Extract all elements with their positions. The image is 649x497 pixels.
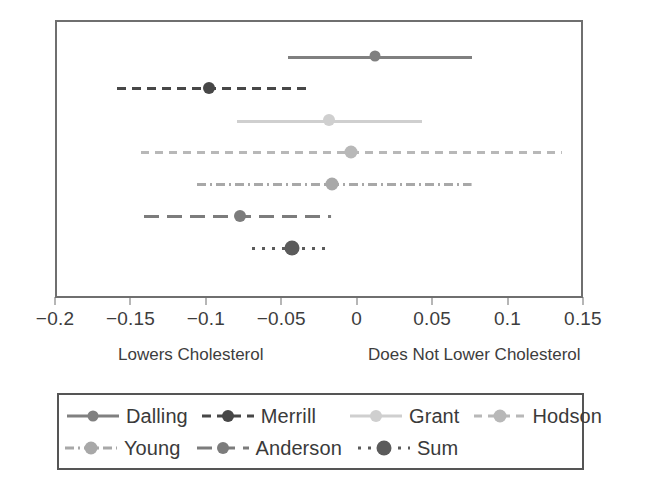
legend-row: YoungAndersonSum (59, 432, 588, 464)
x-axis-tick (281, 297, 282, 305)
x-axis-tick-label: 0.15 (564, 308, 602, 330)
legend-item-dalling[interactable]: Dalling (67, 405, 188, 428)
legend-marker-icon (217, 442, 229, 454)
x-axis-tick (55, 297, 56, 305)
x-axis-tick (432, 297, 433, 305)
point-estimate-marker (323, 114, 335, 126)
x-axis-tick-label: 0.1 (494, 308, 521, 330)
legend-item-label: Anderson (256, 437, 342, 460)
legend-marker-icon (376, 441, 391, 456)
legend-line-sample-icon (202, 408, 254, 424)
x-axis-tick-label: 0.05 (413, 308, 451, 330)
point-estimate-marker (325, 178, 338, 191)
forest-row-grant (57, 104, 581, 136)
legend-item-label: Dalling (126, 405, 188, 428)
legend-line-sample-icon (197, 440, 249, 456)
point-estimate-marker (203, 82, 215, 94)
legend-marker-icon (222, 410, 234, 422)
legend-item-anderson[interactable]: Anderson (197, 437, 342, 460)
point-estimate-marker (234, 210, 246, 222)
legend-item-young[interactable]: Young (65, 437, 181, 460)
plot-area (57, 22, 581, 296)
x-axis-tick-label: −0.15 (106, 308, 155, 330)
x-axis-tick-label: 0 (351, 308, 362, 330)
plot-frame (55, 20, 583, 298)
legend-row: DallingMerrillGrantHodson (59, 400, 590, 432)
point-estimate-marker (370, 51, 381, 62)
legend-marker-icon (370, 410, 382, 422)
x-axis-tick (507, 297, 508, 305)
forest-row-hodson (57, 136, 581, 168)
legend-item-sum[interactable]: Sum (358, 437, 458, 460)
x-axis-tick-label: −0.2 (36, 308, 74, 330)
x-axis-tick (356, 297, 357, 305)
legend-item-grant[interactable]: Grant (350, 405, 460, 428)
legend-marker-icon (493, 410, 506, 423)
x-axis-tick (205, 297, 206, 305)
legend: DallingMerrillGrantHodson YoungAndersonS… (57, 393, 584, 470)
legend-item-label: Grant (409, 405, 460, 428)
legend-item-label: Merrill (261, 405, 316, 428)
x-axis: −0.2−0.15−0.1−0.0500.050.10.15 (55, 297, 583, 298)
forest-row-dalling (57, 40, 581, 72)
x-axis-tick-label: −0.05 (257, 308, 306, 330)
legend-item-label: Young (124, 437, 181, 460)
legend-line-sample-icon (67, 408, 119, 424)
legend-line-sample-icon (65, 440, 117, 456)
legend-item-label: Hodson (533, 405, 603, 428)
legend-item-label: Sum (417, 437, 458, 460)
legend-marker-icon (88, 411, 99, 422)
point-estimate-marker (345, 146, 358, 159)
legend-line-sample-icon (474, 408, 526, 424)
forest-row-anderson (57, 200, 581, 232)
forest-row-sum (57, 232, 581, 264)
axis-caption-does-not-lower-cholesterol: Does Not Lower Cholesterol (368, 345, 581, 365)
legend-marker-icon (85, 442, 98, 455)
legend-item-merrill[interactable]: Merrill (202, 405, 316, 428)
legend-line-sample-icon (350, 408, 402, 424)
legend-item-hodson[interactable]: Hodson (474, 405, 603, 428)
point-estimate-marker (285, 241, 300, 256)
forest-row-young (57, 168, 581, 200)
legend-line-sample-icon (358, 440, 410, 456)
x-axis-tick (130, 297, 131, 305)
x-axis-tick (583, 297, 584, 305)
forest-plot-figure: −0.2−0.15−0.1−0.0500.050.10.15 Lowers Ch… (0, 0, 649, 497)
x-axis-tick-label: −0.1 (187, 308, 225, 330)
forest-row-merrill (57, 72, 581, 104)
axis-caption-lowers-cholesterol: Lowers Cholesterol (118, 345, 264, 365)
